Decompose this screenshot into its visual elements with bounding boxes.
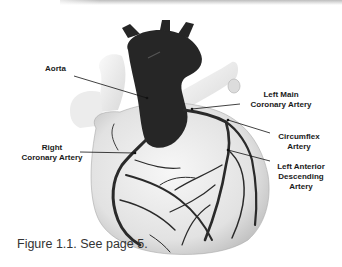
label-right-coronary-artery: Right Coronary Artery bbox=[16, 143, 88, 163]
label-line: Artery bbox=[268, 182, 334, 192]
label-line: Circumflex bbox=[272, 132, 326, 142]
label-circumflex-artery: Circumflex Artery bbox=[272, 132, 326, 152]
label-aorta: Aorta bbox=[45, 64, 66, 74]
label-left-main-coronary-artery: Left Main Coronary Artery bbox=[245, 90, 317, 110]
label-line: Left Anterior bbox=[268, 162, 334, 172]
figure-caption: Figure 1.1. See page 5. bbox=[17, 237, 148, 251]
label-left-anterior-descending-artery: Left Anterior Descending Artery bbox=[268, 162, 334, 192]
label-line: Coronary Artery bbox=[16, 153, 88, 163]
label-line: Artery bbox=[272, 142, 326, 152]
label-line: Left Main bbox=[245, 90, 317, 100]
label-line: Descending bbox=[268, 172, 334, 182]
label-line: Coronary Artery bbox=[245, 100, 317, 110]
label-line: Right bbox=[16, 143, 88, 153]
